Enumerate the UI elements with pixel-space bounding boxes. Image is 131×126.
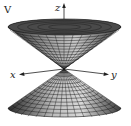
upper-cone [8, 19, 121, 69]
z-axis [62, 3, 66, 20]
panel-label: V [3, 4, 12, 15]
z-axis-label: z [54, 2, 61, 13]
double-cone-diagram: V z [0, 0, 131, 126]
lower-cone [8, 69, 121, 117]
x-axis-label: x [10, 69, 16, 80]
y-axis-label: y [110, 69, 117, 80]
